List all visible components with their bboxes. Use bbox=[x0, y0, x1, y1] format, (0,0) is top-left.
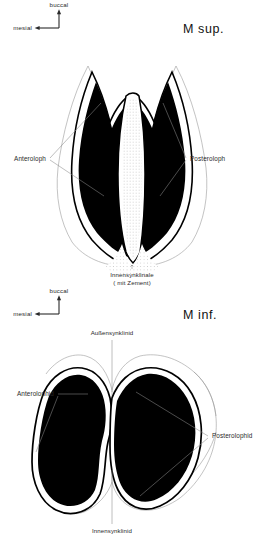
molar-cross-section-figure: buccal mesial M sup. bbox=[0, 0, 265, 544]
upper-molar-section bbox=[72, 72, 193, 276]
arrow-left-icon-lower bbox=[35, 312, 59, 316]
label-aussensynklinid: Außensynklinid bbox=[91, 329, 134, 336]
panel-lower-molar: buccal mesial M inf. Außensynklinid bbox=[13, 287, 253, 534]
lower-molar-distal-lobe bbox=[110, 368, 201, 509]
arrow-up-icon bbox=[57, 9, 61, 28]
panel-upper-molar: buccal mesial M sup. bbox=[13, 1, 225, 286]
axis-label-mesial-lower: mesial bbox=[13, 310, 32, 317]
arrow-up-icon-lower bbox=[57, 295, 61, 314]
label-innensynklinale-note: ( mit Zement) bbox=[113, 279, 151, 286]
label-posteroloph: Posteroloph bbox=[190, 155, 226, 163]
axis-label-buccal-upper: buccal bbox=[50, 1, 69, 8]
figure-canvas: buccal mesial M sup. bbox=[0, 0, 265, 544]
label-posterolophid: Posterolophid bbox=[212, 432, 253, 440]
panel-title-lower: M inf. bbox=[183, 308, 217, 322]
label-innensynklinid: Innensynklinid bbox=[92, 527, 132, 534]
axis-label-mesial-upper: mesial bbox=[13, 24, 32, 31]
label-anterolophid: Anterolophid bbox=[17, 390, 54, 398]
orientation-compass-upper: buccal mesial bbox=[13, 1, 68, 31]
label-anteroloph: Anteroloph bbox=[14, 155, 46, 163]
axis-label-buccal-lower: buccal bbox=[50, 287, 69, 294]
panel-title-upper: M sup. bbox=[183, 22, 224, 36]
orientation-compass-lower: buccal mesial bbox=[13, 287, 68, 317]
arrow-left-icon bbox=[35, 26, 59, 30]
label-innensynklinale: Innensynklinale bbox=[110, 271, 154, 278]
